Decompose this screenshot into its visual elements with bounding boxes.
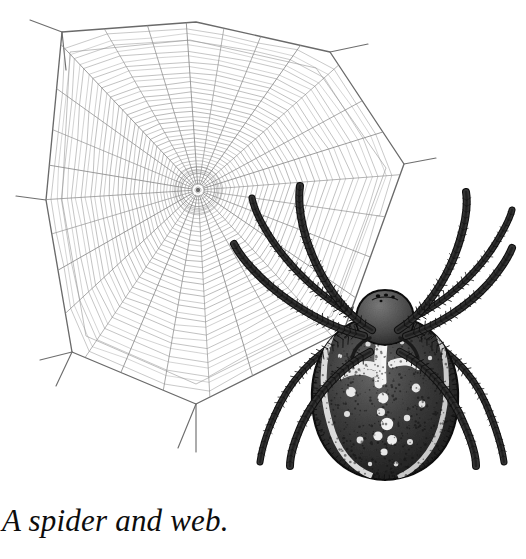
figure-container: A spider and web.	[0, 0, 526, 559]
figure-caption: A spider and web.	[2, 503, 402, 539]
spider-and-web-illustration	[0, 0, 526, 559]
web-hub	[175, 167, 222, 214]
